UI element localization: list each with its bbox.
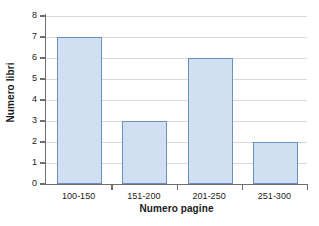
- y-axis-tick-label: 8: [24, 11, 37, 20]
- y-axis-tick: [40, 15, 46, 16]
- x-axis-tick-label: 251-300: [242, 191, 307, 201]
- bar: [253, 142, 298, 184]
- y-axis-tick: [40, 162, 46, 163]
- y-axis-tick-label: 7: [24, 32, 37, 41]
- x-axis-title: Numero pagine: [46, 203, 307, 214]
- bar-chart-figure: Numero libri Numero pagine 012345678100-…: [0, 0, 319, 226]
- x-axis-tick-label: 100-150: [46, 191, 111, 201]
- y-axis-tick-label: 6: [24, 53, 37, 62]
- y-axis-tick: [40, 57, 46, 58]
- gridline: [46, 16, 307, 17]
- y-axis-tick: [40, 183, 46, 184]
- x-axis-tick: [242, 185, 243, 190]
- x-axis-tick-label: 201-250: [177, 191, 242, 201]
- y-axis-tick: [40, 120, 46, 121]
- y-axis-tick: [40, 141, 46, 142]
- bar: [57, 37, 102, 184]
- y-axis-tick-label: 2: [24, 137, 37, 146]
- x-axis-tick: [307, 185, 308, 190]
- y-axis-tick: [40, 36, 46, 37]
- y-axis-tick-label: 0: [24, 179, 37, 188]
- y-axis-tick-label: 1: [24, 158, 37, 167]
- y-axis-tick: [40, 78, 46, 79]
- y-axis-title: Numero libri: [0, 0, 20, 184]
- x-axis-tick: [177, 185, 178, 190]
- y-axis-tick: [40, 99, 46, 100]
- y-axis-tick-label: 5: [24, 74, 37, 83]
- y-axis-tick-label: 4: [24, 95, 37, 104]
- bar: [122, 121, 167, 184]
- y-axis-title-text: Numero libri: [5, 62, 16, 122]
- x-axis-tick-label: 151-200: [111, 191, 176, 201]
- y-axis-tick-label: 3: [24, 116, 37, 125]
- x-axis-tick: [111, 185, 112, 190]
- bar: [188, 58, 233, 184]
